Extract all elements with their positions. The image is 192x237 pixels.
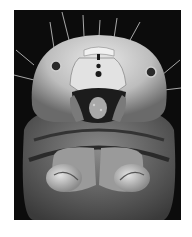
right-stemma <box>146 67 156 77</box>
larva-micrograph <box>14 10 181 220</box>
left-stemma <box>51 61 61 71</box>
micrograph-frame <box>14 10 181 220</box>
labium <box>89 97 107 119</box>
